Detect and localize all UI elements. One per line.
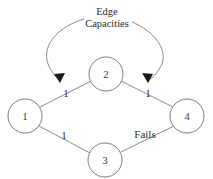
annotation-line-2: Capacities: [85, 18, 129, 29]
edge-group: [39, 81, 174, 153]
node-1-label: 1: [22, 110, 28, 122]
callout-curve-right: [132, 22, 163, 80]
edge-label-3-4-fails: Fails: [134, 128, 155, 140]
edge-label-1-3: 1: [61, 129, 67, 141]
annotation-line-1: Edge: [96, 6, 118, 17]
node-4-label: 4: [184, 110, 190, 122]
annotation-text-group: Edge Capacities: [85, 6, 129, 29]
graph-diagram: 1 2 3 4 1 1 1 Fails Edge Capacities: [0, 0, 213, 179]
node-3-label: 3: [102, 154, 108, 166]
callout-arrowhead-left: [54, 73, 65, 83]
edge-label-2-4: 1: [145, 87, 151, 99]
graph-canvas: 1 2 3 4 1 1 1 Fails Edge Capacities: [0, 0, 213, 179]
node-group: 1 2 3 4: [8, 57, 204, 177]
edge-label-group: 1 1 1 Fails: [61, 87, 155, 141]
callout-curve-left: [47, 19, 84, 80]
edge-label-1-2: 1: [63, 87, 69, 99]
node-2-label: 2: [103, 68, 109, 80]
